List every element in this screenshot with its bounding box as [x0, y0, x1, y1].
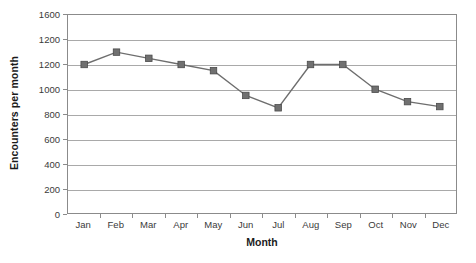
data-point-marker [340, 61, 346, 67]
x-tick-mark [197, 214, 198, 218]
y-tick-label: 600 [24, 134, 60, 145]
series-line [84, 52, 440, 108]
x-tick-mark [360, 214, 361, 218]
data-point-marker [404, 98, 410, 104]
x-tick-label: Aug [302, 219, 319, 230]
x-tick-label: Jan [76, 219, 91, 230]
y-tick-label: 1000 [24, 84, 60, 95]
x-tick-mark [262, 214, 263, 218]
y-tick-label: 1600 [24, 9, 60, 20]
data-point-marker [372, 86, 378, 92]
x-tick-mark [392, 214, 393, 218]
y-axis-title-label: Encounters per month [8, 55, 20, 169]
data-point-marker [81, 61, 87, 67]
data-point-marker [146, 55, 152, 61]
x-axis-tick-marks [67, 214, 457, 218]
x-tick-label: Feb [108, 219, 124, 230]
y-axis-title: Encounters per month [4, 0, 24, 225]
data-point-marker [437, 103, 443, 109]
x-tick-label: Mar [140, 219, 156, 230]
plot-area [67, 14, 457, 214]
line-chart-figure: Encounters per month 0200400600800100012… [0, 0, 476, 263]
x-tick-label: Dec [432, 219, 449, 230]
data-point-marker [243, 92, 249, 98]
x-axis-title: Month [67, 236, 457, 248]
y-tick-label: 400 [24, 159, 60, 170]
data-point-marker [178, 61, 184, 67]
x-tick-mark [100, 214, 101, 218]
x-tick-label: Sep [335, 219, 352, 230]
data-point-marker [307, 61, 313, 67]
x-tick-label: Apr [173, 219, 188, 230]
data-point-marker [210, 67, 216, 73]
y-tick-label: 1200 [24, 34, 60, 45]
x-tick-mark [132, 214, 133, 218]
y-tick-label: 200 [24, 184, 60, 195]
x-tick-label: Jun [238, 219, 253, 230]
x-tick-label: Nov [400, 219, 417, 230]
x-tick-mark [295, 214, 296, 218]
y-tick-label: 0 [24, 209, 60, 220]
x-tick-label: Jul [272, 219, 284, 230]
series-plot [68, 15, 456, 213]
y-tick-label: 1200 [24, 59, 60, 70]
x-tick-mark [327, 214, 328, 218]
data-point-marker [113, 49, 119, 55]
x-tick-mark [425, 214, 426, 218]
y-axis-tick-labels: 02004006008001000120012001600 [24, 14, 60, 214]
data-point-marker [275, 105, 281, 111]
x-tick-label: Oct [368, 219, 383, 230]
x-tick-label: May [204, 219, 222, 230]
x-axis-tick-labels: JanFebMarAprMayJunJulAugSepOctNovDec [67, 219, 457, 233]
x-tick-mark [165, 214, 166, 218]
y-tick-label: 800 [24, 109, 60, 120]
x-tick-mark [230, 214, 231, 218]
